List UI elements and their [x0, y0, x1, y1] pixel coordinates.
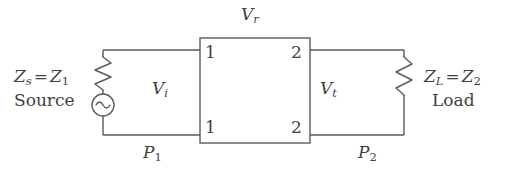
source-impedance-equals: =	[32, 66, 50, 86]
incident-voltage-label: Vi	[152, 80, 168, 100]
load-resistor-zigzag	[396, 57, 412, 95]
port-2-bottom-label: 2	[291, 119, 302, 136]
port-2-top-label: 2	[291, 44, 302, 61]
reflected-voltage-subscript: r	[253, 12, 259, 26]
output-power-symbol: P	[358, 142, 369, 162]
input-power-label: P1	[143, 144, 162, 164]
input-power-subscript: 1	[154, 150, 161, 164]
port-1-bottom-label: 1	[205, 119, 216, 136]
transmitted-voltage-symbol: V	[320, 78, 332, 98]
transmitted-voltage-label: Vt	[320, 80, 337, 100]
input-power-symbol: P	[143, 142, 154, 162]
source-impedance-value: Z	[50, 66, 62, 86]
load-impedance-label: ZL=Z2	[424, 68, 481, 88]
load-impedance-symbol: Z	[424, 66, 436, 86]
circuit-diagram-figure: Zs=Z1 Source ZL=Z2 Load Vr Vi Vt P1 P2 1…	[0, 0, 514, 176]
source-resistor-zigzag	[95, 57, 111, 90]
output-power-subscript: 2	[369, 150, 376, 164]
reflected-voltage-label: Vr	[241, 6, 259, 26]
source-impedance-label: Zs=Z1	[14, 68, 69, 88]
load-impedance-value-subscript: 2	[474, 74, 481, 88]
load-impedance-equals: =	[443, 66, 461, 86]
transmitted-voltage-subscript: t	[332, 86, 337, 100]
output-power-label: P2	[358, 144, 377, 164]
source-impedance-symbol: Z	[14, 66, 26, 86]
reflected-voltage-symbol: V	[241, 4, 253, 24]
port-1-top-label: 1	[205, 44, 216, 61]
source-impedance-subscript: s	[26, 74, 32, 88]
incident-voltage-symbol: V	[152, 78, 164, 98]
source-impedance-value-subscript: 1	[62, 74, 69, 88]
ac-source-sine-icon	[96, 102, 110, 108]
source-label: Source	[14, 92, 75, 109]
load-impedance-value: Z	[462, 66, 474, 86]
incident-voltage-subscript: i	[164, 86, 168, 100]
load-label: Load	[432, 92, 475, 109]
